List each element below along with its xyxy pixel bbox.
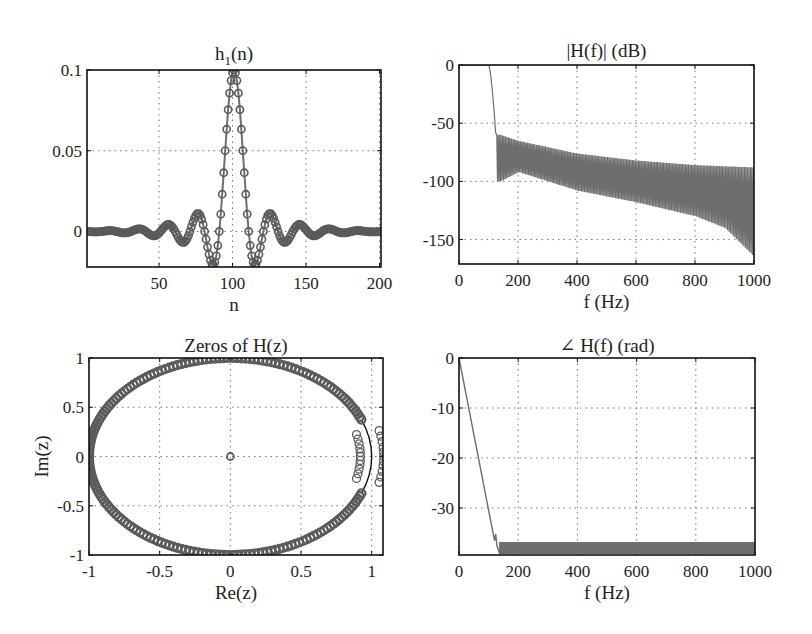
y-tick-label: -0.5 <box>57 497 84 516</box>
y-tick-label: -20 <box>431 449 454 468</box>
figure: 5010015020000.050.1nh1(n) 02004006008001… <box>0 0 812 634</box>
x-tick-label: 50 <box>151 274 168 293</box>
x-tick-label: 0 <box>226 562 235 581</box>
magnitude-response-subplot: 02004006008001000-150-100-500f (Hz)|H(f)… <box>423 40 771 313</box>
y-tick-label: -100 <box>423 172 454 191</box>
y-tick-label: 0 <box>74 222 83 241</box>
chart-title: |H(f)| (dB) <box>567 40 647 62</box>
x-tick-label: 600 <box>623 271 649 290</box>
chart-title: Zeros of H(z) <box>184 335 287 357</box>
x-tick-label: 200 <box>505 271 531 290</box>
x-axis-label: f (Hz) <box>584 291 630 313</box>
x-tick-label: 800 <box>683 562 709 581</box>
x-tick-label: 200 <box>505 562 531 581</box>
x-tick-label: 400 <box>565 562 591 581</box>
y-tick-label: 0 <box>446 349 455 368</box>
y-tick-label: -1 <box>70 546 84 565</box>
x-axis-label: n <box>229 294 239 315</box>
axes-frame <box>459 358 755 555</box>
y-tick-label: 0.1 <box>61 61 82 80</box>
y-tick-label: -30 <box>431 499 454 518</box>
x-tick-label: 1 <box>367 562 376 581</box>
y-tick-label: 0 <box>76 448 85 467</box>
x-tick-label: 150 <box>293 274 319 293</box>
x-tick-label: 800 <box>682 271 708 290</box>
y-axis-label: Im(z) <box>31 435 53 477</box>
x-tick-label: 200 <box>367 274 393 293</box>
impulse-response-subplot: 5010015020000.050.1nh1(n) <box>52 43 392 315</box>
x-axis-label: f (Hz) <box>584 582 630 604</box>
x-tick-label: 0 <box>455 271 464 290</box>
phase-series <box>459 358 755 554</box>
x-tick-label: 0.5 <box>290 562 311 581</box>
y-tick-label: -50 <box>431 114 454 133</box>
y-tick-label: 0.05 <box>52 142 82 161</box>
impulse-series <box>83 66 384 268</box>
phase-response-subplot: 02004006008001000-30-20-100f (Hz)∠ H(f) … <box>431 335 772 604</box>
x-tick-label: 400 <box>564 271 590 290</box>
y-tick-label: -10 <box>431 399 454 418</box>
x-tick-label: -0.5 <box>146 562 173 581</box>
x-tick-label: 1000 <box>738 562 772 581</box>
x-tick-label: 600 <box>624 562 650 581</box>
x-tick-label: -1 <box>82 562 96 581</box>
chart-title: h1(n) <box>215 43 253 68</box>
magnitude-series <box>459 65 754 256</box>
x-axis-label: Re(z) <box>215 582 257 604</box>
zeros-plot-subplot: -1-0.500.51-1-0.500.51Re(z)Im(z)Zeros of… <box>31 335 388 604</box>
y-tick-label: -150 <box>423 231 454 250</box>
x-tick-label: 1000 <box>737 271 771 290</box>
y-tick-label: 0 <box>446 56 455 75</box>
chart-title: ∠ H(f) (rad) <box>559 335 654 357</box>
x-tick-label: 0 <box>455 562 464 581</box>
axes-frame <box>87 70 381 267</box>
y-tick-label: 1 <box>76 349 85 368</box>
x-tick-label: 100 <box>220 274 246 293</box>
y-tick-label: 0.5 <box>63 398 84 417</box>
